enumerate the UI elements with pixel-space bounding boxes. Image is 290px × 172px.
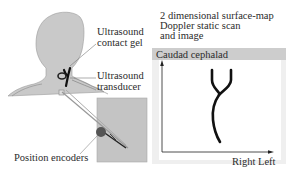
position-encoder-icon <box>96 127 106 137</box>
scan-title: 2 dimensional surface-map Doppler static… <box>160 11 274 41</box>
label-position-encoders: Position encoders <box>14 152 88 163</box>
scan-header-label: Caudad cephalad <box>156 49 228 60</box>
x-axis-label: Right Left <box>232 156 275 167</box>
label-line: Ultrasound <box>97 70 144 81</box>
head-silhouette <box>8 12 104 96</box>
title-line: and image <box>160 31 274 41</box>
label-line: Ultrasound <box>97 26 144 37</box>
label-contact-gel: Ultrasound contact gel <box>97 26 144 48</box>
label-transducer: Ultrasound transducer <box>97 70 144 92</box>
label-line: contact gel <box>97 37 144 48</box>
label-line: transducer <box>97 81 144 92</box>
